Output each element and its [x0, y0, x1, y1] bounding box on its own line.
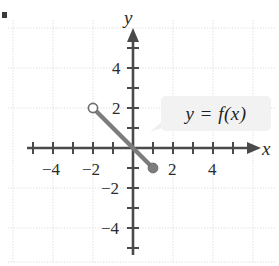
y-tick-label-4: 4 — [112, 60, 121, 77]
x-tick-label-2: 2 — [168, 161, 177, 178]
x-tick-label-4: 4 — [208, 161, 217, 178]
y-tick-label-2: 2 — [112, 100, 121, 117]
x-axis-label: x — [262, 139, 270, 158]
function-label: y = f(x) — [161, 96, 271, 131]
coordinate-plane — [0, 0, 279, 266]
open-endpoint-marker — [88, 103, 97, 112]
graph-figure: y = f(x) y x −4 −2 2 4 4 2 −2 −4 — [0, 0, 279, 266]
grid-lines — [8, 20, 276, 262]
closed-endpoint-marker — [148, 163, 158, 173]
y-tick-label-neg4: −4 — [101, 220, 119, 237]
scan-artifact-mark — [2, 12, 7, 18]
x-axis — [27, 142, 261, 154]
y-axis-label: y — [124, 8, 132, 27]
x-tick-label-neg2: −2 — [82, 161, 100, 178]
x-tick-label-neg4: −4 — [42, 161, 60, 178]
y-tick-label-neg2: −2 — [101, 180, 119, 197]
